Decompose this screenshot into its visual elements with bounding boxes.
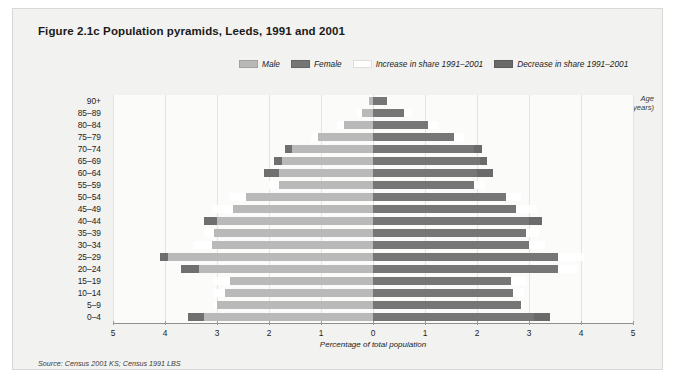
bar-segment-female xyxy=(373,121,428,129)
y-axis-label: 20–24 xyxy=(78,265,101,273)
bar-segment-male xyxy=(212,241,373,249)
legend-swatch xyxy=(291,60,310,68)
bar-segment-male xyxy=(233,205,373,213)
bar-segment-decrease xyxy=(188,313,204,321)
bar-segment-female xyxy=(373,301,521,309)
y-axis-label: 90+ xyxy=(87,97,101,105)
x-tick-label: 1 xyxy=(423,328,428,338)
figure-title: Figure 2.1c Population pyramids, Leeds, … xyxy=(38,25,345,37)
bar-segment-male xyxy=(318,133,373,141)
bar-segment-increase xyxy=(511,277,527,285)
bar-segment-increase xyxy=(428,121,438,129)
bar-segment-female xyxy=(373,253,558,261)
bar-row xyxy=(113,193,633,201)
y-axis-label: 80–84 xyxy=(78,121,101,129)
legend-swatch xyxy=(494,60,513,68)
x-axis-ticks: 54321012345 xyxy=(113,325,633,339)
bar-row xyxy=(113,97,633,105)
bar-segment-male xyxy=(217,217,373,225)
bar-segment-male xyxy=(225,289,373,297)
source-note: Source: Census 2001 KS; Census 1991 LBS xyxy=(38,359,181,368)
bar-segment-female xyxy=(373,205,516,213)
x-tick-label: 2 xyxy=(267,328,272,338)
bar-segment-male xyxy=(199,265,373,273)
y-axis-label: 0–4 xyxy=(87,313,101,321)
bar-segment-female xyxy=(373,289,513,297)
x-tick-mark xyxy=(581,321,582,325)
x-tick-mark xyxy=(477,321,478,325)
x-tick-mark xyxy=(633,321,634,325)
bar-segment-decrease xyxy=(285,145,293,153)
bar-segment-decrease xyxy=(274,157,282,165)
bar-segment-male xyxy=(362,109,373,117)
y-axis-label: 45–49 xyxy=(78,205,101,213)
bar-segment-male xyxy=(292,145,373,153)
y-axis-labels: 90+85–8980–8475–7970–7465–6960–6455–5950… xyxy=(13,95,109,323)
bar-segment-female xyxy=(373,169,477,177)
bar-segment-male xyxy=(217,301,373,309)
bar-segment-male xyxy=(204,313,373,321)
bar-segment-decrease xyxy=(181,265,199,273)
y-axis-label: 25–29 xyxy=(78,253,101,261)
bar-segment-increase xyxy=(521,301,524,309)
population-pyramid-plot xyxy=(113,95,633,323)
bar-segment-male xyxy=(168,253,373,261)
x-tick-label: 3 xyxy=(215,328,220,338)
legend-swatch xyxy=(353,60,372,68)
x-tick-mark xyxy=(529,321,530,325)
bar-row xyxy=(113,313,633,321)
bar-segment-increase xyxy=(214,277,230,285)
bar-row xyxy=(113,229,633,237)
bar-row xyxy=(113,217,633,225)
bar-segment-increase xyxy=(558,253,584,261)
bar-row xyxy=(113,145,633,153)
bar-segment-female xyxy=(373,229,526,237)
bar-segment-female xyxy=(373,97,387,105)
bar-segment-female xyxy=(373,109,404,117)
y-axis-label: 50–54 xyxy=(78,193,101,201)
legend-label: Male xyxy=(262,59,280,69)
bar-row xyxy=(113,277,633,285)
bar-segment-female xyxy=(373,157,480,165)
bar-segment-increase xyxy=(214,301,217,309)
bar-row xyxy=(113,241,633,249)
bar-row xyxy=(113,181,633,189)
bar-segment-increase xyxy=(204,229,214,237)
bar-row xyxy=(113,109,633,117)
bar-row xyxy=(113,133,633,141)
bar-segment-increase xyxy=(194,241,212,249)
bar-segment-decrease xyxy=(534,313,550,321)
legend-label: Increase in share 1991–2001 xyxy=(376,59,483,69)
y-axis-label: 55–59 xyxy=(78,181,101,189)
y-axis-label: 75–79 xyxy=(78,133,101,141)
y-axis-label: 70–74 xyxy=(78,145,101,153)
bar-segment-decrease xyxy=(204,217,217,225)
bar-segment-increase xyxy=(230,193,246,201)
legend-label: Female xyxy=(314,59,342,69)
bar-segment-male xyxy=(214,229,373,237)
y-axis-label: 10–14 xyxy=(78,289,101,297)
bar-segment-increase xyxy=(357,109,361,117)
bar-segment-female xyxy=(373,265,558,273)
bar-segment-decrease xyxy=(474,145,482,153)
y-axis-label: 30–34 xyxy=(78,241,101,249)
bar-segment-female xyxy=(373,217,529,225)
bar-segment-male xyxy=(279,181,373,189)
bar-segment-increase xyxy=(269,181,279,189)
x-tick-label: 5 xyxy=(631,328,636,338)
x-tick-label: 1 xyxy=(319,328,324,338)
y-axis-label: 60–64 xyxy=(78,169,101,177)
bar-segment-decrease xyxy=(264,169,280,177)
bar-segment-increase xyxy=(516,205,537,213)
bar-segment-increase xyxy=(368,97,370,105)
bar-segment-increase xyxy=(513,289,523,297)
bar-row xyxy=(113,265,633,273)
bar-row xyxy=(113,205,633,213)
bar-segment-decrease xyxy=(160,253,168,261)
bar-segment-increase xyxy=(212,205,233,213)
bar-segment-female xyxy=(373,193,506,201)
bar-row xyxy=(113,253,633,261)
bar-segment-increase xyxy=(454,133,464,141)
chart-legend: MaleFemaleIncrease in share 1991–2001Dec… xyxy=(239,59,628,69)
bar-segment-increase xyxy=(311,133,319,141)
